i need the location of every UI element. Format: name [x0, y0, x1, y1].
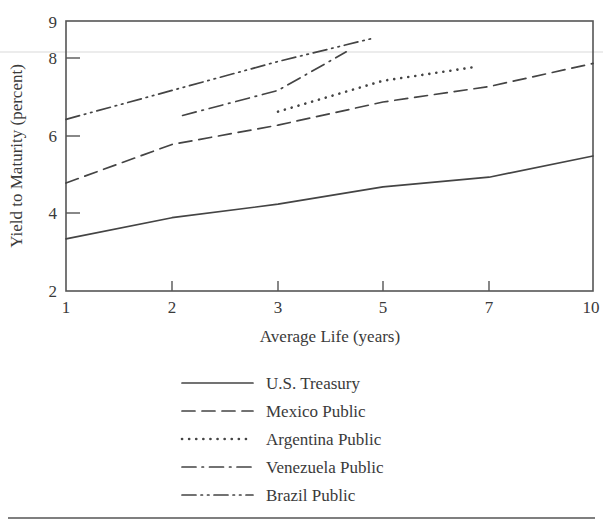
x-axis-tick-labels: 1 2 3 5 7 10	[62, 298, 600, 317]
legend-label-argentina-public: Argentina Public	[266, 430, 382, 449]
y-axis-tick-labels: 9 8 6 4 2	[49, 13, 58, 301]
chart-svg: 9 8 6 4 2 Yield to Maturity (percent) 1 …	[0, 0, 603, 529]
legend-label-mexico-public: Mexico Public	[266, 402, 366, 421]
chart-legend: U.S. TreasuryMexico PublicArgentina Publ…	[182, 374, 384, 505]
x-tick-label: 7	[485, 298, 494, 317]
yield-curve-figure: 9 8 6 4 2 Yield to Maturity (percent) 1 …	[0, 0, 603, 529]
series-line-mexico-public	[66, 63, 593, 183]
y-tick-label: 9	[49, 13, 58, 32]
x-axis-ticks	[172, 281, 489, 291]
x-axis-title: Average Life (years)	[260, 327, 400, 346]
legend-label-u-s-treasury: U.S. Treasury	[266, 374, 360, 393]
y-axis-title: Yield to Maturity (percent)	[7, 64, 26, 248]
legend-label-brazil-public: Brazil Public	[266, 486, 356, 505]
data-series-group	[66, 38, 593, 239]
x-tick-label: 10	[583, 298, 600, 317]
series-line-u-s-treasury	[66, 156, 593, 239]
y-tick-label: 8	[49, 49, 58, 68]
y-tick-label: 6	[49, 127, 58, 146]
x-tick-label: 3	[274, 298, 283, 317]
x-tick-label: 1	[62, 298, 71, 317]
x-tick-label: 5	[379, 298, 388, 317]
x-tick-label: 2	[168, 298, 177, 317]
legend-label-venezuela-public: Venezuela Public	[266, 458, 384, 477]
series-line-brazil-public	[66, 38, 373, 119]
series-line-venezuela-public	[183, 52, 347, 116]
y-tick-label: 4	[49, 204, 58, 223]
y-tick-label: 2	[49, 282, 58, 301]
y-axis-ticks	[66, 58, 80, 213]
